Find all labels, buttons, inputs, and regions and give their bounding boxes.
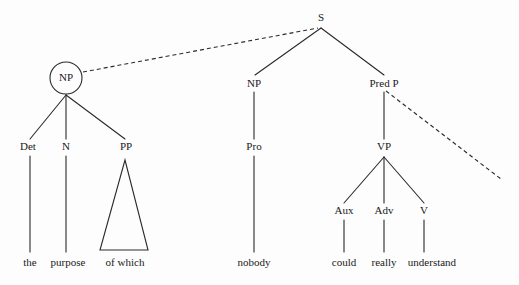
node-aux: Aux (335, 204, 354, 216)
branch-s-to-np (255, 28, 321, 75)
leaf-of-which: of which (106, 256, 145, 268)
tree-canvas: S NP Det N PP NP Pro Pred P VP Aux Adv V… (0, 0, 519, 285)
movement-line-np-to-s (83, 28, 318, 72)
leaf-could: could (332, 256, 357, 268)
node-pro: Pro (246, 140, 262, 152)
branch-vp-to-aux (344, 157, 384, 203)
node-det: Det (20, 140, 36, 152)
leaf-really: really (371, 256, 397, 268)
node-adv: Adv (375, 204, 394, 216)
node-n: N (62, 140, 70, 152)
syntax-tree-diagram: S NP Det N PP NP Pro Pred P VP Aux Adv V… (0, 0, 519, 285)
branch-np-to-det (30, 95, 66, 139)
branch-np-to-pp (66, 95, 125, 139)
node-v: V (420, 204, 428, 216)
node-pp: PP (120, 140, 132, 152)
leaf-nobody: nobody (238, 256, 272, 268)
node-np-subject: NP (247, 77, 261, 89)
node-vp: VP (377, 140, 391, 152)
node-np-circled: NP (59, 71, 73, 83)
branch-s-to-predp (321, 28, 384, 75)
movement-line-predp-trace (386, 91, 501, 179)
leaf-the: the (23, 256, 37, 268)
pp-triangle (100, 160, 148, 250)
branch-vp-to-v (384, 157, 424, 203)
leaf-understand: understand (408, 256, 457, 268)
node-s: S (318, 11, 324, 23)
leaf-purpose: purpose (51, 256, 86, 268)
node-pred-p: Pred P (369, 77, 398, 89)
